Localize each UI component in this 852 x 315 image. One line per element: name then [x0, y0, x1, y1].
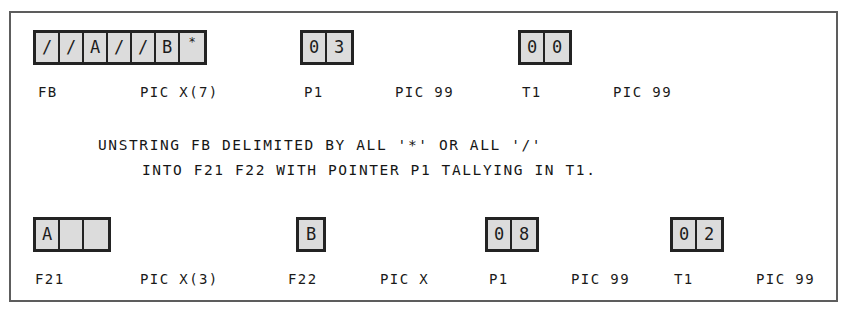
field-cell: 2 — [697, 220, 721, 249]
field-box-p1-before: 0 3 — [300, 30, 354, 65]
field-label-fb: FB — [38, 84, 58, 100]
field-picture-f21: PIC X(3) — [140, 271, 219, 287]
field-cell: 0 — [303, 33, 327, 62]
field-label-t1-before: T1 — [522, 84, 542, 100]
field-picture-p1-after: PIC 99 — [571, 271, 630, 287]
field-cell: A — [84, 33, 108, 62]
field-picture-fb: PIC X(7) — [140, 84, 219, 100]
field-cell: 0 — [545, 33, 569, 62]
field-cell: 8 — [512, 220, 536, 249]
field-label-t1-after: T1 — [674, 271, 694, 287]
field-cell: 3 — [327, 33, 351, 62]
field-cell: 0 — [521, 33, 545, 62]
diagram-content: / / A / / B * FB PIC X(7) 0 3 P1 PIC 99 … — [0, 0, 852, 315]
field-picture-t1-after: PIC 99 — [756, 271, 815, 287]
field-cell — [60, 220, 84, 249]
field-cell: 0 — [488, 220, 512, 249]
field-cell: * — [180, 33, 204, 62]
field-cell: B — [299, 220, 323, 249]
field-cell: A — [36, 220, 60, 249]
field-cell: 0 — [673, 220, 697, 249]
field-box-f22: B — [296, 217, 326, 252]
field-box-fb: / / A / / B * — [33, 30, 207, 65]
field-box-t1-after: 0 2 — [670, 217, 724, 252]
field-box-t1-before: 0 0 — [518, 30, 572, 65]
field-cell — [84, 220, 108, 249]
field-cell: / — [132, 33, 156, 62]
field-cell: B — [156, 33, 180, 62]
field-label-f22: F22 — [288, 271, 318, 287]
field-label-p1-before: P1 — [304, 84, 324, 100]
field-picture-p1-before: PIC 99 — [395, 84, 454, 100]
unstring-statement-line2: INTO F21 F22 WITH POINTER P1 TALLYING IN… — [142, 162, 597, 178]
field-cell: / — [108, 33, 132, 62]
field-cell: / — [60, 33, 84, 62]
field-box-p1-after: 0 8 — [485, 217, 539, 252]
field-label-p1-after: P1 — [489, 271, 509, 287]
field-box-f21: A — [33, 217, 111, 252]
field-picture-t1-before: PIC 99 — [613, 84, 672, 100]
field-cell: / — [36, 33, 60, 62]
unstring-statement-line1: UNSTRING FB DELIMITED BY ALL '*' OR ALL … — [98, 137, 542, 153]
field-picture-f22: PIC X — [380, 271, 429, 287]
field-label-f21: F21 — [35, 271, 65, 287]
